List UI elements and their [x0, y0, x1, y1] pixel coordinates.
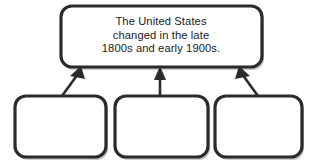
detail-box-3[interactable]	[215, 96, 302, 157]
detail-box-1[interactable]	[15, 96, 106, 157]
arrow-from-detail-2	[154, 66, 166, 96]
arrow-from-detail-3	[235, 66, 258, 96]
detail-box-2[interactable]	[115, 96, 208, 157]
diagram-canvas: The United States changed in the late 18…	[0, 0, 316, 166]
arrow-from-detail-1	[62, 66, 85, 96]
main-idea-line-2: changed in the late	[61, 29, 261, 43]
main-idea-line-3: 1800s and early 1900s.	[61, 42, 261, 56]
main-idea-text: The United States changed in the late 18…	[61, 15, 261, 56]
main-idea-line-1: The United States	[61, 15, 261, 29]
